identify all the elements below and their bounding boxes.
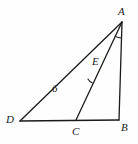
vertex-label-E: E	[92, 56, 99, 67]
side-length-label-DE: 6	[52, 83, 58, 94]
segment-AB	[119, 22, 122, 120]
geometry-figure: A B C D E 6	[0, 0, 138, 144]
angle-mark-at-E	[88, 79, 93, 83]
vertex-label-D: D	[6, 114, 14, 125]
segment-DA	[20, 22, 122, 121]
vertex-label-B: B	[121, 122, 128, 133]
segment-DB	[20, 120, 119, 121]
figure-strokes	[20, 22, 122, 121]
vertex-label-C: C	[72, 126, 79, 137]
angle-mark-at-A	[115, 36, 122, 38]
geometry-canvas	[0, 0, 138, 144]
vertex-label-A: A	[118, 6, 125, 17]
